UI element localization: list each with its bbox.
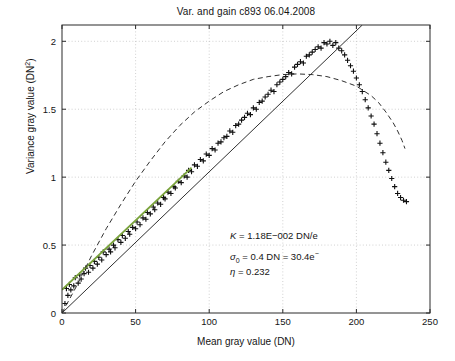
- eta-symbol: η: [230, 266, 235, 277]
- x-tick-label: 250: [422, 316, 438, 327]
- x-tick-label: 50: [130, 316, 141, 327]
- sigma-value: = 0.4 DN = 30.4e: [242, 251, 314, 262]
- x-tick-label: 150: [275, 316, 291, 327]
- y-tick-label: 2: [28, 36, 56, 47]
- eta-value: = 0.232: [238, 266, 270, 277]
- y-tick-label: 0: [28, 308, 56, 319]
- annotation-eta: η = 0.232: [230, 264, 270, 279]
- plot-canvas: [0, 0, 455, 361]
- annotation-gain: K = 1.18E−002 DN/e: [230, 228, 318, 243]
- photon-transfer-chart: Var. and gain c893 06.04.2008 Variance g…: [0, 0, 455, 361]
- x-tick-label: 0: [59, 316, 64, 327]
- y-tick-label: 1: [28, 172, 56, 183]
- gain-value: = 1.18E−002 DN/e: [239, 230, 318, 241]
- sigma-superscript: −: [315, 250, 319, 257]
- x-tick-label: 100: [201, 316, 217, 327]
- x-tick-label: 200: [348, 316, 364, 327]
- sigma-subscript: 0: [236, 257, 240, 264]
- y-tick-label: 1.5: [28, 104, 56, 115]
- gain-symbol: K: [230, 230, 236, 241]
- y-tick-label: 0.5: [28, 240, 56, 251]
